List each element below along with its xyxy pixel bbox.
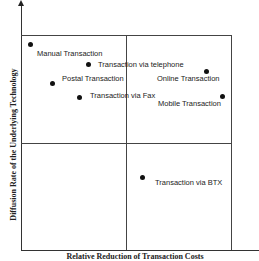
- data-point-marker: [77, 95, 82, 100]
- y-axis-label: Diffusion Rate of the Underlying Technol…: [9, 60, 18, 230]
- data-point-label: Transaction via BTX: [155, 179, 222, 187]
- data-point-label: Transaction via telephone: [98, 61, 184, 69]
- data-point-marker: [86, 62, 91, 67]
- data-point-marker: [140, 175, 145, 180]
- data-point-label: Transaction via Fax: [90, 92, 155, 100]
- x-axis-label: Relative Reduction of Transaction Costs: [45, 252, 225, 261]
- data-point-marker: [220, 94, 225, 99]
- data-point-label: Online Transaction: [157, 75, 220, 83]
- quadrant-horizontal-divider: [21, 143, 232, 144]
- data-point-marker: [50, 81, 55, 86]
- data-point-label: Manual Transaction: [37, 50, 102, 58]
- data-point-label: Postal Transaction: [62, 75, 124, 83]
- data-point-label: Mobile Transaction: [158, 100, 221, 108]
- data-point-marker: [204, 69, 209, 74]
- x-axis-line: [21, 250, 259, 251]
- y-axis-arrow-icon: [18, 0, 24, 6]
- data-point-marker: [28, 42, 33, 47]
